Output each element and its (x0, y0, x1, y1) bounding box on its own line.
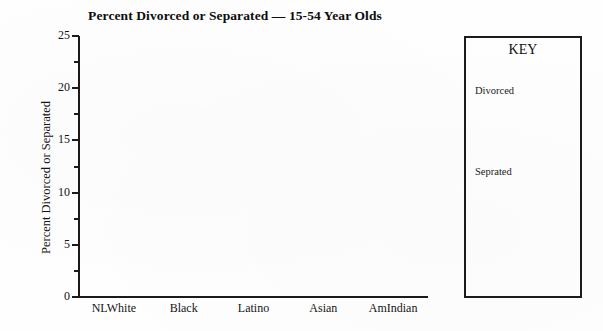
y-tick-mark (74, 113, 79, 115)
y-tick-mark (74, 61, 79, 63)
y-tick-mark (72, 87, 79, 89)
chart-page: Percent Divorced or Separated — 15-54 Ye… (0, 0, 603, 331)
y-tick-mark (72, 192, 79, 194)
y-tick-mark (74, 218, 79, 220)
chart-title: Percent Divorced or Separated — 15-54 Ye… (0, 8, 470, 24)
x-axis-category-label: NLWhite (92, 300, 136, 317)
y-tick-label: 0 (64, 288, 70, 304)
legend-entry-separated: Seprated (475, 166, 512, 177)
x-axis-category-label: Black (170, 300, 198, 317)
y-tick-label: 25 (58, 27, 70, 43)
y-tick-mark (74, 166, 79, 168)
legend-entry-divorced: Divorced (475, 85, 514, 96)
y-tick-label: 15 (58, 131, 70, 147)
y-tick-label: 20 (58, 79, 70, 95)
y-axis-title: Percent Divorced or Separated (39, 53, 54, 303)
plot-area (79, 36, 428, 297)
x-axis-category-label: AmIndian (369, 300, 418, 317)
y-tick-mark (74, 270, 79, 272)
legend-title: KEY (466, 42, 580, 58)
y-tick-label: 10 (58, 184, 70, 200)
legend-key-box: KEY Divorced Seprated (464, 36, 582, 298)
y-tick-mark (72, 35, 79, 37)
x-axis-category-label: Asian (309, 300, 337, 317)
x-axis-category-label: Latino (238, 300, 269, 317)
y-tick-mark (72, 139, 79, 141)
y-tick-mark (72, 296, 79, 298)
y-tick-label: 5 (64, 236, 70, 252)
x-axis-labels: NLWhiteBlackLatinoAsianAmIndian (79, 300, 428, 320)
y-tick-mark (72, 244, 79, 246)
